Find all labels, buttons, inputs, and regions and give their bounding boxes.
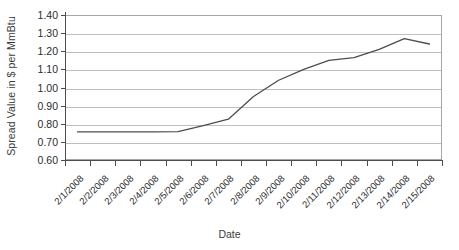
y-axis-line xyxy=(65,12,66,163)
y-axis-tick-label: 0.70 xyxy=(20,137,58,148)
y-axis-tick-label: 1.30 xyxy=(20,28,58,39)
x-axis-tick-mark xyxy=(216,161,217,166)
x-axis-tick-mark xyxy=(90,161,91,166)
y-axis-tick-label: 1.00 xyxy=(20,83,58,94)
x-axis-tick-mark xyxy=(316,161,317,166)
x-axis-tick-mark xyxy=(417,161,418,166)
x-axis-tick-mark xyxy=(266,161,267,166)
y-axis-title: Spread Value in $ per MmBtu xyxy=(0,0,22,172)
x-axis-tick-mark xyxy=(65,161,66,166)
y-axis-title-label: Spread Value in $ per MmBtu xyxy=(5,16,17,156)
spread-value-line-chart: Spread Value in $ per MmBtu 1.401.301.20… xyxy=(0,0,459,250)
y-axis-tick-label: 0.90 xyxy=(20,101,58,112)
y-axis-tick-label: 0.80 xyxy=(20,119,58,130)
x-axis-tick-mark xyxy=(166,161,167,166)
y-axis-tick-label: 1.20 xyxy=(20,46,58,57)
y-axis-tick-label: 1.10 xyxy=(20,64,58,75)
y-axis-tick-label: 1.40 xyxy=(20,10,58,21)
x-axis-tick-mark xyxy=(191,161,192,166)
series-line-spread-value xyxy=(65,15,442,160)
x-axis-tick-mark xyxy=(341,161,342,166)
y-axis-tick-label: 0.60 xyxy=(20,155,58,166)
x-axis-tick-mark xyxy=(392,161,393,166)
x-axis-title: Date xyxy=(0,228,459,240)
x-axis-tick-mark xyxy=(367,161,368,166)
x-axis-line xyxy=(65,160,443,161)
x-axis-tick-mark xyxy=(115,161,116,166)
x-axis-tick-mark xyxy=(291,161,292,166)
x-axis-tick-mark xyxy=(442,161,443,166)
x-axis-tick-mark xyxy=(241,161,242,166)
x-axis-tick-mark xyxy=(140,161,141,166)
